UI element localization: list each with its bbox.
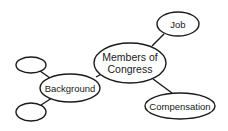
node-blank-bottom [16,103,46,121]
concept-map: Members of Congress Job Background Compe… [0,0,228,131]
node-compensation: Compensation [145,93,215,119]
node-label-background: Background [45,83,96,94]
edge-background-blank-top [40,71,50,78]
node-label-line2: Congress [108,63,153,75]
edge-center-job [152,34,164,46]
node-label-compensation: Compensation [149,101,210,112]
node-job: Job [157,12,199,36]
node-label-job: Job [170,19,185,30]
edge-center-compensation [153,79,172,93]
node-label-line1: Members of [102,51,158,63]
node-blank-top [16,57,46,73]
node-members-of-congress: Members of Congress [94,43,166,83]
node-background: Background [40,74,100,102]
